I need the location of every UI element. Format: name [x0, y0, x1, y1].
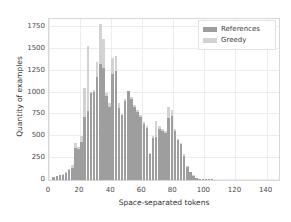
- x-tick-0: 0: [46, 186, 50, 194]
- y-tick-1750: 1750: [27, 22, 45, 30]
- y-tick-0: 0: [41, 175, 45, 183]
- gridline-y-1250: [49, 70, 279, 71]
- y-tick-250: 250: [32, 153, 45, 161]
- x-tick-80: 80: [168, 186, 177, 194]
- histogram-figure: 02505007501000125015001750 0204060801001…: [0, 0, 291, 222]
- x-axis-label: Space-separated tokens: [48, 198, 280, 207]
- bar: [211, 179, 214, 180]
- legend-swatch-references: [203, 27, 217, 32]
- x-tick-140: 140: [259, 186, 272, 194]
- gridline-x-0: [49, 19, 50, 180]
- x-axis-tick-labels: 020406080100120140: [0, 186, 291, 196]
- y-tick-1250: 1250: [27, 66, 45, 74]
- legend-swatch-greedy: [203, 38, 217, 43]
- legend-item-references: References: [203, 24, 272, 34]
- x-tick-120: 120: [228, 186, 241, 194]
- x-tick-20: 20: [75, 186, 84, 194]
- x-tick-60: 60: [137, 186, 146, 194]
- legend-label-greedy: Greedy: [221, 36, 246, 44]
- y-tick-1000: 1000: [27, 88, 45, 96]
- chart-legend: References Greedy: [198, 20, 276, 50]
- x-tick-40: 40: [106, 186, 115, 194]
- x-tick-100: 100: [197, 186, 210, 194]
- y-tick-1500: 1500: [27, 44, 45, 52]
- y-tick-500: 500: [32, 131, 45, 139]
- legend-label-references: References: [221, 25, 260, 33]
- y-tick-750: 750: [32, 109, 45, 117]
- y-axis-label: Quantity of examples: [15, 32, 24, 162]
- legend-item-greedy: Greedy: [203, 35, 272, 45]
